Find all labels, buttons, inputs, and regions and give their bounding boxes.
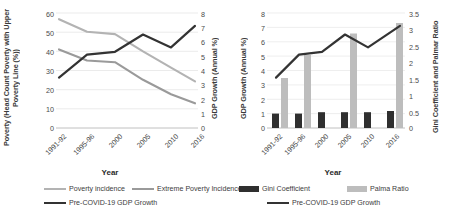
legend-label: Palma Ratio [370, 185, 409, 193]
right-chart-legend-item-gini-coefficient[interactable]: Gini Coefficient [239, 185, 310, 193]
legend-label: Pre-COVID-19 GDP Growth [292, 199, 380, 207]
right-chart-series-gdp-growth [276, 26, 400, 78]
right-chart-panel: GDP Growth (Annual %) Gini Coefficient a… [225, 0, 449, 217]
left-chart-panel: Poverty (Head Count Poverty with Upper P… [0, 0, 225, 217]
left-chart-series-poverty-incidence [59, 19, 195, 81]
legend-line-icon [267, 202, 289, 205]
legend-label: Pre-COVID-19 GDP Growth [69, 199, 157, 207]
legend-box-icon [347, 186, 367, 192]
right-chart-x-axis-title: Year [313, 168, 353, 177]
legend-box-icon [239, 186, 259, 192]
legend-line-icon [44, 202, 66, 205]
left-chart-series-extreme-poverty-incidence [59, 49, 195, 103]
left-chart-legend-item-gdp-growth[interactable]: Pre-COVID-19 GDP Growth [44, 199, 157, 207]
right-chart-legend-item-palma-ratio[interactable]: Palma Ratio [347, 185, 409, 193]
figure-two-panel-chart: Poverty (Head Count Poverty with Upper P… [0, 0, 449, 217]
legend-label: Gini Coefficient [262, 185, 310, 193]
left-chart-x-axis-title: Year [90, 168, 130, 177]
legend-line-icon [44, 188, 66, 190]
left-chart-legend-item-poverty-incidence[interactable]: Poverty incidence [44, 185, 125, 193]
right-chart-legend-item-gdp-growth[interactable]: Pre-COVID-19 GDP Growth [267, 199, 380, 207]
legend-label: Poverty incidence [69, 185, 125, 193]
legend-line-icon [132, 188, 154, 190]
